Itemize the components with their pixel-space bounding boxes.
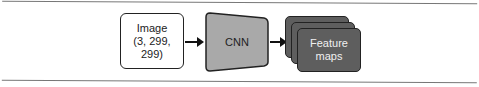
feature-maps-label-line2: maps [310,50,348,63]
cnn-label: CNN [205,12,269,72]
arrow-cnn-to-feature-maps [270,41,285,43]
input-shape-label: (3, 299, 299) [121,35,183,61]
input-label: Image [121,22,183,35]
arrow-input-to-cnn [185,41,202,43]
feature-map-layer-front: Feature maps [297,28,361,72]
input-image-node: Image (3, 299, 299) [120,13,184,69]
feature-maps-label-line1: Feature [310,37,348,50]
